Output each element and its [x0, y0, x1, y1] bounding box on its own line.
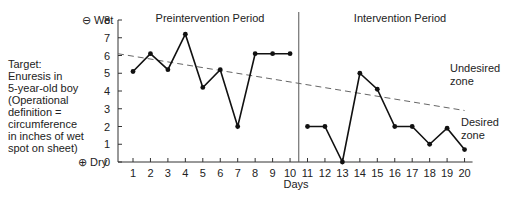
data-point: [392, 124, 397, 129]
undesired-zone-label: zone: [450, 75, 474, 87]
y-tick-label: 3: [104, 103, 110, 115]
x-tick-label: 15: [371, 167, 383, 179]
data-point: [235, 124, 240, 129]
data-point: [357, 71, 362, 76]
data-point: [410, 124, 415, 129]
x-tick-label: 12: [319, 167, 331, 179]
x-tick-label: 6: [217, 167, 223, 179]
data-point: [427, 142, 432, 147]
data-point: [218, 67, 223, 72]
data-point: [270, 51, 275, 56]
intervention-line: [308, 73, 465, 162]
single-subject-line-chart: 0123456781234567891011121314151617181920…: [0, 0, 510, 198]
data-point: [183, 32, 188, 37]
preintervention-line: [133, 34, 290, 126]
x-tick-label: 8: [252, 167, 258, 179]
x-tick-label: 5: [200, 167, 206, 179]
y-tick-label: 4: [104, 85, 110, 97]
x-axis-title: Days: [283, 178, 309, 190]
y-tick-label: 6: [104, 50, 110, 62]
data-point: [288, 51, 293, 56]
x-tick-label: 3: [165, 167, 171, 179]
desired-zone-label: Desired: [461, 116, 499, 128]
x-tick-label: 1: [130, 167, 136, 179]
data-point: [253, 51, 258, 56]
data-point: [375, 87, 380, 92]
x-tick-label: 2: [147, 167, 153, 179]
x-tick-label: 14: [354, 167, 366, 179]
y-tick-label: 5: [104, 67, 110, 79]
undesired-zone-label: Undesired: [450, 62, 500, 74]
x-tick-label: 13: [336, 167, 348, 179]
preintervention-period-title: Preintervention Period: [156, 12, 265, 24]
y-tick-label: 1: [104, 138, 110, 150]
x-tick-label: 20: [458, 167, 470, 179]
intervention-period-title: Intervention Period: [354, 12, 446, 24]
x-tick-label: 17: [406, 167, 418, 179]
y-tick-label: 2: [104, 121, 110, 133]
x-tick-label: 18: [424, 167, 436, 179]
wet-label: ⊖ Wet: [82, 14, 113, 26]
trend-line: [118, 54, 465, 111]
x-tick-label: 19: [441, 167, 453, 179]
x-tick-label: 7: [235, 167, 241, 179]
x-tick-label: 4: [182, 167, 188, 179]
x-tick-label: 9: [270, 167, 276, 179]
data-point: [445, 126, 450, 131]
desired-zone-label: zone: [461, 129, 485, 141]
data-point: [462, 147, 467, 152]
axes: 0123456781234567891011121314151617181920: [104, 12, 473, 179]
data-point: [340, 160, 345, 165]
data-point: [323, 124, 328, 129]
chart-labels: ⊖ Wet⊕ DryPreintervention PeriodInterven…: [78, 12, 500, 190]
data-point: [131, 69, 136, 74]
data-point: [200, 85, 205, 90]
x-tick-label: 16: [389, 167, 401, 179]
y-tick-label: 7: [104, 32, 110, 44]
data-point: [148, 51, 153, 56]
data-point: [166, 67, 171, 72]
dashed-trend-line: [118, 54, 465, 111]
data-point: [305, 124, 310, 129]
dry-label: ⊕ Dry: [78, 156, 108, 168]
